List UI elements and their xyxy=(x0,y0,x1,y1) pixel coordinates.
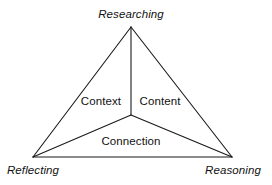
region-label-content: Content xyxy=(140,96,181,108)
vertex-label-researching: Researching xyxy=(98,9,164,21)
triangle-diagram: Researching Reflecting Reasoning Context… xyxy=(0,0,272,185)
region-label-context: Context xyxy=(81,96,121,108)
region-label-connection: Connection xyxy=(101,136,160,148)
vertex-label-reflecting: Reflecting xyxy=(7,165,59,177)
vertex-label-reasoning: Reasoning xyxy=(205,165,261,177)
triangle-diagram-canvas xyxy=(0,0,272,185)
